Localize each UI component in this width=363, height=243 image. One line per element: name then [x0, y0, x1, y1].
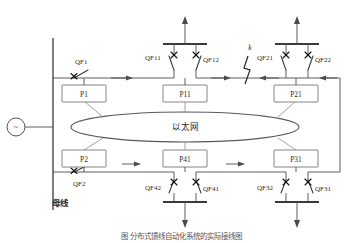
unit-p2-label: P2: [80, 155, 88, 164]
figure-root: ~: [0, 0, 363, 243]
breaker-qf21[interactable]: QF21: [257, 44, 289, 70]
breaker-qf2[interactable]: QF2: [71, 165, 88, 188]
flow-arrow-3: [259, 75, 279, 80]
breaker-qf32-label: QF32: [257, 184, 273, 192]
ac-source: ~: [7, 118, 53, 136]
bottom-feeder-line: [53, 172, 340, 180]
unit-p31-label: P31: [290, 155, 302, 164]
source-symbol-label: ~: [14, 123, 19, 132]
flow-arrow-6: [226, 161, 245, 166]
breaker-qf12[interactable]: QF12: [193, 44, 219, 70]
unit-p31[interactable]: P31: [274, 150, 318, 172]
breaker-qf2-label: QF2: [73, 180, 86, 188]
breaker-qf32[interactable]: QF32: [257, 179, 289, 202]
unit-p21[interactable]: P21: [274, 78, 318, 102]
ethernet-label: 以太网: [172, 121, 199, 132]
breaker-qf41-label: QF41: [203, 185, 219, 193]
flow-arrow-2: [211, 75, 231, 80]
breaker-qf22[interactable]: QF22: [305, 44, 331, 70]
single-line-diagram: ~: [0, 0, 363, 243]
busbar-label: 母线: [52, 198, 69, 208]
unit-p1[interactable]: P1: [62, 78, 106, 102]
breaker-qf42-label: QF42: [145, 184, 161, 192]
figure-caption: 图 分布式馈线自动化系统的实际接线图: [0, 231, 363, 243]
breaker-qf31[interactable]: QF31: [305, 179, 331, 202]
unit-p41-label: P41: [179, 155, 191, 164]
flow-arrow-1: [111, 75, 133, 80]
breaker-qf1[interactable]: QF1: [71, 58, 88, 79]
unit-p21-label: P21: [290, 90, 302, 99]
breaker-qf41[interactable]: QF41: [193, 179, 219, 202]
breaker-qf1-label: QF1: [75, 58, 88, 66]
breaker-qf21-label: QF21: [257, 54, 273, 62]
unit-p11[interactable]: P11: [163, 78, 207, 102]
unit-p11-label: P11: [179, 90, 191, 99]
breaker-qf42[interactable]: QF42: [145, 179, 177, 202]
breaker-qf12-label: QF12: [203, 56, 219, 64]
bottom-left-feeder-head: [163, 202, 207, 228]
breaker-qf11[interactable]: QF11: [145, 44, 177, 70]
fault-point-label: k: [248, 43, 252, 52]
flow-arrow-5: [122, 161, 141, 166]
top-left-feeder-head: [163, 16, 207, 44]
unit-p1-label: P1: [80, 90, 88, 99]
bottom-right-feeder-head: [275, 202, 319, 228]
top-right-feeder-head: [275, 16, 319, 44]
breaker-qf31-label: QF31: [315, 185, 331, 193]
ethernet-cloud: 以太网: [71, 112, 299, 142]
unit-p41[interactable]: P41: [163, 150, 207, 172]
unit-p2[interactable]: P2: [62, 150, 106, 172]
breaker-qf11-label: QF11: [145, 54, 161, 62]
flow-arrow-4: [319, 75, 337, 80]
breaker-qf22-label: QF22: [315, 56, 331, 64]
